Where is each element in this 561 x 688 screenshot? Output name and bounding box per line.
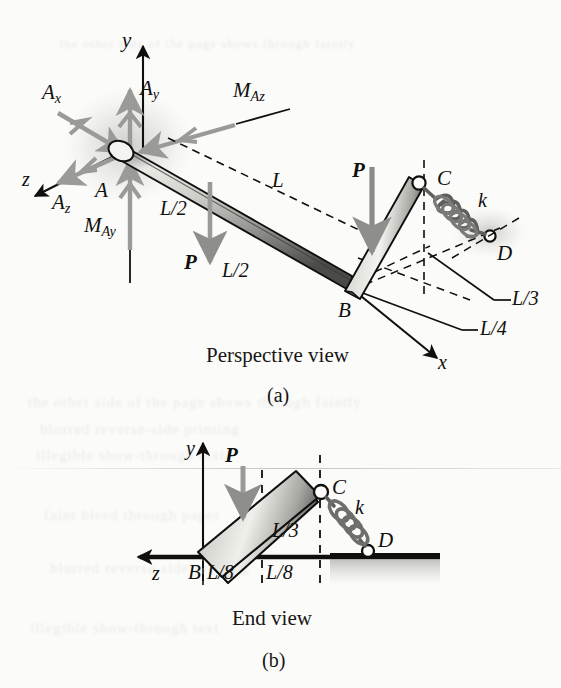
axis-label-x: x — [438, 352, 447, 372]
reaction-label-Ax-sub: x — [55, 90, 61, 106]
dimension-label-L-over-4: L/4 — [480, 318, 507, 338]
axis-x-line — [356, 292, 437, 358]
perspective-view-panel — [35, 46, 527, 358]
dimension-label-L-over-3: L/3 — [512, 288, 539, 308]
ground-support-block — [330, 553, 440, 559]
spring-label-k: k — [478, 190, 487, 210]
reaction-label-MAy: MAy — [84, 215, 116, 238]
dimension-label-L-over-3-endview: L/3 — [272, 520, 299, 540]
moment-MAz-tail — [236, 109, 290, 124]
bar-segment-BC — [345, 177, 424, 299]
axis-label-y: y — [122, 30, 131, 51]
reaction-label-MAz: MAz — [233, 80, 265, 103]
point-label-D-endview: D — [378, 530, 393, 551]
panel-a-subcaption: (a) — [267, 385, 289, 405]
dimension-label-L-over-8-first: L/8 — [207, 562, 234, 582]
panel-b-caption: End view — [232, 608, 312, 629]
axis-label-z-endview: z — [152, 563, 160, 583]
reaction-label-Ay: Ay — [140, 78, 159, 101]
point-label-B-endview: B — [188, 562, 201, 583]
load-label-P-on-BC: P — [352, 160, 365, 181]
panel-b-subcaption: (b) — [262, 650, 285, 670]
load-label-P-midspan: P — [184, 252, 197, 273]
panel-a-caption: Perspective view — [206, 345, 349, 366]
leader-line-L-over-3 — [428, 253, 494, 300]
dimension-label-L-over-2-first: L/2 — [160, 198, 187, 218]
axis-label-z: z — [22, 169, 30, 189]
leader-line-L-over-4 — [360, 292, 462, 330]
point-label-A: A — [95, 180, 108, 201]
axis-label-y-endview: y — [186, 438, 195, 458]
reaction-label-MAz-sub: Az — [251, 88, 265, 104]
ground-support-shadow — [330, 559, 440, 585]
dimension-label-L-over-8-second: L/8 — [266, 562, 293, 582]
reaction-label-Az: Az — [52, 192, 70, 215]
dimension-label-L: L — [272, 170, 284, 191]
point-label-C-endview: C — [332, 477, 346, 498]
figure-stage: the other side of the page shows through… — [0, 0, 561, 688]
load-label-P-endview: P — [225, 445, 238, 466]
reaction-label-Az-sub: z — [65, 200, 71, 216]
spring-label-k-endview: k — [355, 497, 364, 517]
reaction-label-Ay-sub: y — [153, 86, 159, 102]
point-label-B: B — [338, 300, 351, 321]
reaction-label-MAy-sub: Ay — [102, 223, 116, 239]
reaction-label-Ax: Ax — [42, 82, 61, 105]
dimension-label-L-over-2-second: L/2 — [222, 260, 249, 280]
point-label-C: C — [437, 168, 451, 189]
point-label-D: D — [497, 243, 512, 264]
